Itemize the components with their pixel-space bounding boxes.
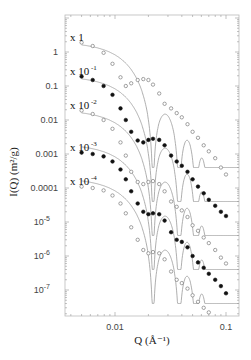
- series-label: x 10 -1: [70, 64, 97, 77]
- x-tick-label: 0.1: [220, 322, 233, 332]
- data-point: [151, 179, 154, 182]
- data-point: [175, 205, 178, 208]
- data-point: [102, 118, 105, 121]
- x-tick-labels: 0.010.1: [106, 322, 232, 332]
- series-label: x 10 -4: [70, 174, 97, 187]
- data-point: [91, 112, 94, 115]
- data-point: [163, 190, 166, 193]
- data-point: [186, 170, 190, 174]
- data-point: [157, 212, 161, 216]
- data-point: [219, 166, 222, 169]
- data-point: [111, 93, 115, 97]
- data-point: [207, 241, 210, 244]
- model-curve: [82, 113, 239, 236]
- data-point: [202, 144, 205, 147]
- data-point: [196, 185, 200, 189]
- data-point: [180, 116, 183, 119]
- data-point: [119, 141, 122, 144]
- data-point: [158, 92, 161, 95]
- model-curve: [82, 45, 239, 168]
- data-point: [191, 224, 194, 227]
- data-point: [111, 62, 114, 65]
- data-point: [124, 178, 128, 182]
- y-tick-label: 10-6: [34, 249, 50, 261]
- data-point: [157, 138, 161, 142]
- data-point: [151, 83, 154, 86]
- data-point: [196, 300, 199, 303]
- data-point: [147, 78, 150, 81]
- data-point: [102, 189, 105, 192]
- data-point: [91, 44, 94, 47]
- data-point: [136, 139, 140, 143]
- data-point: [147, 212, 151, 216]
- data-point: [102, 51, 105, 54]
- data-point: [196, 229, 199, 232]
- data-point: [180, 281, 183, 284]
- data-point: [175, 111, 178, 114]
- data-point: [175, 160, 179, 164]
- data-point: [158, 252, 161, 255]
- data-point: [136, 202, 140, 206]
- data-point: [180, 240, 184, 244]
- data-point: [158, 182, 161, 185]
- y-tick-labels: 10.10.010.0010.000110-510-610-7: [30, 47, 58, 295]
- x-axis-title: Q (Å⁻¹): [134, 334, 170, 347]
- data-point: [224, 262, 227, 265]
- data-point: [147, 252, 150, 255]
- data-point: [196, 136, 199, 139]
- data-points: [80, 41, 228, 314]
- data-point: [163, 144, 167, 148]
- data-point: [119, 202, 122, 205]
- data-point: [169, 154, 173, 158]
- data-point: [169, 230, 173, 234]
- data-point: [175, 278, 178, 281]
- data-point: [124, 84, 127, 87]
- data-point: [213, 204, 217, 208]
- y-tick-label: 0.1: [45, 81, 58, 91]
- series-label: x 10 -2: [70, 98, 97, 111]
- data-point: [180, 164, 184, 168]
- data-point: [111, 160, 115, 164]
- data-point: [191, 178, 195, 182]
- y-tick-label: 10-7: [34, 283, 50, 295]
- series-labels: x 1x 10 -1x 10 -2x 10 -3x 10 -4: [70, 31, 97, 187]
- data-point: [163, 219, 167, 223]
- data-point: [169, 270, 172, 273]
- data-point: [207, 198, 211, 202]
- data-point: [214, 157, 217, 160]
- y-tick-label: 1: [53, 47, 58, 57]
- data-point: [136, 78, 139, 81]
- data-point: [151, 250, 154, 253]
- data-point: [213, 278, 217, 282]
- data-point: [202, 192, 206, 196]
- data-point: [191, 294, 194, 297]
- data-point: [175, 238, 179, 242]
- data-point: [91, 78, 95, 82]
- data-point: [142, 182, 145, 185]
- data-point: [186, 215, 189, 218]
- data-point: [207, 311, 210, 314]
- data-point: [136, 180, 139, 183]
- data-point: [111, 194, 114, 197]
- data-point: [102, 155, 106, 159]
- y-tick-label: 0.01: [40, 115, 58, 125]
- data-point: [163, 258, 166, 261]
- data-point: [142, 141, 146, 145]
- data-point: [207, 272, 211, 276]
- data-point: [219, 284, 223, 288]
- data-point: [186, 246, 190, 250]
- data-point: [129, 130, 133, 134]
- data-point: [119, 107, 123, 111]
- data-point: [202, 306, 205, 309]
- data-point: [151, 212, 155, 216]
- data-point: [191, 130, 194, 133]
- data-point: [130, 170, 133, 173]
- y-axis-title: I(Q) (m²/g): [7, 147, 20, 197]
- data-point: [224, 214, 228, 218]
- data-point: [119, 76, 122, 79]
- series-label: x 1: [70, 31, 84, 43]
- chart: 10.10.010.0010.000110-510-610-7 0.010.1 …: [0, 0, 251, 360]
- data-point: [130, 82, 133, 85]
- data-point: [147, 138, 151, 142]
- data-point: [163, 102, 166, 105]
